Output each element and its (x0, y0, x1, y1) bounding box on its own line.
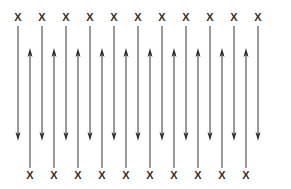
bottom-field-symbol-2: X (74, 169, 82, 181)
down-arrow-7 (184, 26, 189, 141)
bottom-field-symbol-3: X (98, 169, 106, 181)
up-arrow-2 (76, 48, 81, 168)
top-field-symbol-4: X (110, 11, 118, 23)
bottom-field-symbol-0: X (26, 169, 34, 181)
bottom-field-symbol-6: X (170, 169, 178, 181)
top-field-symbol-10: X (254, 11, 262, 23)
up-arrow-8 (220, 48, 225, 168)
top-field-symbol-1: X (38, 11, 46, 23)
bottom-field-symbol-5: X (146, 169, 154, 181)
bottom-field-symbol-8: X (218, 169, 226, 181)
up-arrow-6 (172, 48, 177, 168)
down-arrow-10 (256, 26, 261, 141)
top-field-symbol-8: X (206, 11, 214, 23)
top-field-symbol-0: X (14, 11, 22, 23)
up-arrow-7 (196, 48, 201, 168)
top-field-symbol-5: X (134, 11, 142, 23)
top-field-symbol-7: X (182, 11, 190, 23)
down-arrow-0 (16, 26, 21, 141)
top-field-symbol-3: X (86, 11, 94, 23)
down-arrow-8 (208, 26, 213, 141)
top-field-symbol-2: X (62, 11, 70, 23)
down-arrow-6 (160, 26, 165, 141)
down-arrow-5 (136, 26, 141, 141)
bottom-field-symbol-row: XXXXXXXXXX (26, 169, 250, 181)
bottom-field-symbol-7: X (194, 169, 202, 181)
down-arrow-4 (112, 26, 117, 141)
down-arrow-2 (64, 26, 69, 141)
up-arrow-9 (244, 48, 249, 168)
up-arrow-3 (100, 48, 105, 168)
up-arrow-5 (148, 48, 153, 168)
bottom-field-symbol-1: X (50, 169, 58, 181)
top-field-symbol-6: X (158, 11, 166, 23)
up-arrow-4 (124, 48, 129, 168)
down-arrow-1 (40, 26, 45, 141)
up-arrow-0 (28, 48, 33, 168)
top-field-symbol-row: XXXXXXXXXXX (14, 11, 262, 23)
down-arrow-9 (232, 26, 237, 141)
field-diagram-figure: XXXXXXXXXXX XXXXXXXXXX (0, 0, 291, 189)
up-arrow-1 (52, 48, 57, 168)
bottom-field-symbol-9: X (242, 169, 250, 181)
field-diagram-canvas: XXXXXXXXXXX XXXXXXXXXX (0, 0, 291, 189)
down-arrow-3 (88, 26, 93, 141)
down-arrow-group (16, 26, 261, 141)
bottom-field-symbol-4: X (122, 169, 130, 181)
top-field-symbol-9: X (230, 11, 238, 23)
